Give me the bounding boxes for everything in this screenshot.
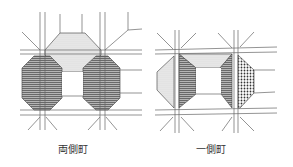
panel-one-side — [155, 30, 277, 133]
block-right-dense-dotted — [238, 55, 254, 108]
caption-one-side: 一側町 — [196, 141, 226, 156]
diagram-canvas — [0, 0, 293, 167]
courtyard — [62, 72, 83, 96]
block-left-hatched — [22, 56, 62, 110]
block-left-dotted — [157, 56, 174, 108]
courtyard — [196, 68, 221, 94]
panel-both-sides — [20, 12, 142, 130]
block-right-hatched — [83, 56, 120, 110]
caption-both-sides: 両側町 — [58, 141, 88, 156]
